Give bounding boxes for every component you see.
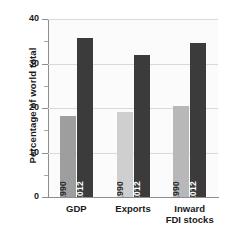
bar: 2012 xyxy=(190,43,206,197)
bar: 1990 xyxy=(173,106,189,197)
y-tick-minor xyxy=(44,130,48,131)
y-tick-mark xyxy=(42,197,48,198)
bar: 2012 xyxy=(134,55,150,197)
y-tick-minor xyxy=(44,41,48,42)
y-tick-mark xyxy=(42,108,48,109)
bar-value-label: 1990 xyxy=(173,181,181,197)
y-tick-label: 10 xyxy=(13,147,39,157)
y-tick-mark xyxy=(42,19,48,20)
y-tick-label: 0 xyxy=(13,191,39,201)
category-label-line: Inward xyxy=(150,203,225,214)
y-tick-label: 20 xyxy=(13,102,39,112)
y-tick-minor xyxy=(44,175,48,176)
bar: 1990 xyxy=(60,116,76,197)
y-tick-label: 40 xyxy=(13,13,39,23)
bar-value-label: 2012 xyxy=(190,181,198,197)
x-axis-category-label: InwardFDI stocks xyxy=(150,203,225,225)
y-tick-mark xyxy=(42,153,48,154)
bar-value-label: 2012 xyxy=(134,181,142,197)
bar-value-label: 2012 xyxy=(77,181,85,197)
bar-chart: Percentage of world total 010203040 1990… xyxy=(0,0,225,240)
bar: 2012 xyxy=(77,38,93,197)
gridline xyxy=(48,19,218,20)
y-tick-mark xyxy=(42,64,48,65)
bar-value-label: 1990 xyxy=(60,181,68,197)
y-tick-label: 30 xyxy=(13,58,39,68)
category-label-line: FDI stocks xyxy=(150,214,225,225)
bar-value-label: 1990 xyxy=(117,181,125,197)
x-axis-line xyxy=(48,197,219,198)
y-tick-minor xyxy=(44,86,48,87)
bar: 1990 xyxy=(117,112,133,197)
